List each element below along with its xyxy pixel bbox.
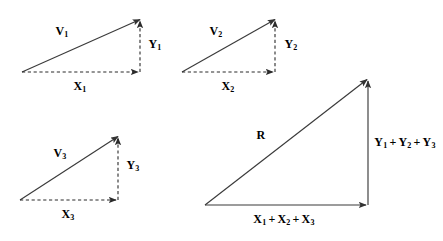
vector-triangle-v2 <box>182 20 275 73</box>
label-v3: V3 <box>53 147 66 159</box>
label-x-sum: X1+X2+X3 <box>253 213 314 225</box>
label-x1: X1 <box>73 80 86 92</box>
vector-diagram: V1 X1 Y1 V2 X2 Y2 V3 X3 Y3 R X1+X2+X3 Y1… <box>0 0 443 241</box>
label-x2: X2 <box>221 80 234 92</box>
label-y1: Y1 <box>148 38 161 50</box>
vector-triangle-v1 <box>22 20 140 73</box>
label-x3: X3 <box>61 208 74 220</box>
vector-arrow-v2 <box>182 20 275 73</box>
vector-arrow-v3 <box>20 137 118 201</box>
label-y-sum: Y1+Y2+Y3 <box>374 136 435 148</box>
label-y3: Y3 <box>126 159 139 171</box>
vector-triangle-v3 <box>20 137 118 201</box>
vector-arrow-resultant <box>205 80 367 206</box>
label-y2: Y2 <box>284 38 297 50</box>
label-v1: V1 <box>55 25 68 37</box>
label-resultant: R <box>257 129 266 141</box>
vector-arrow-v1 <box>22 20 140 73</box>
vector-triangle-resultant <box>205 80 368 206</box>
label-v2: V2 <box>209 25 222 37</box>
